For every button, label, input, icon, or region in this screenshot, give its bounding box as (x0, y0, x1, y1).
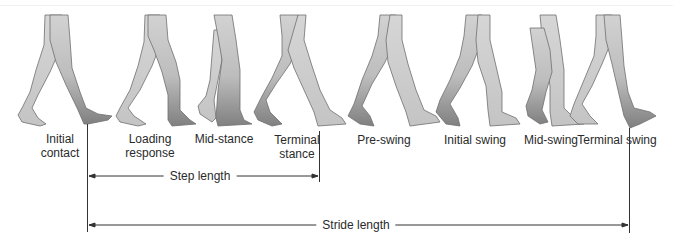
phase-label-mid-stance: Mid-stance (195, 132, 254, 146)
figure-mid-stance (198, 15, 252, 126)
label-line: Pre-swing (357, 133, 410, 147)
label-line: contact (41, 146, 80, 160)
gait-cycle-diagram: Initial contact Loading response Mid-sta… (0, 0, 673, 240)
phase-label-pre-swing: Pre-swing (357, 133, 410, 147)
label-line: Terminal (274, 133, 319, 147)
leg-figures (0, 0, 673, 240)
stride-length-label: Stride length (316, 218, 395, 232)
label-line: Initial swing (444, 133, 506, 147)
phase-label-initial-swing: Initial swing (444, 133, 506, 147)
phase-label-loading-response: Loading response (125, 132, 174, 160)
label-line: Terminal swing (577, 133, 656, 147)
figure-terminal-swing (570, 15, 656, 128)
phase-label-terminal-stance: Terminal stance (274, 133, 319, 161)
figure-initial-contact (18, 15, 112, 126)
step-arrow-right-icon (312, 174, 318, 178)
figure-initial-swing (436, 15, 520, 126)
stride-arrow-left-icon (89, 223, 95, 227)
phase-label-terminal-swing: Terminal swing (577, 133, 656, 147)
figure-pre-swing (348, 15, 440, 126)
label-line: Mid-swing (524, 133, 578, 147)
figure-terminal-stance (254, 15, 346, 126)
label-line: response (125, 146, 174, 160)
phase-label-mid-swing: Mid-swing (524, 133, 578, 147)
phase-label-initial-contact: Initial contact (41, 132, 80, 160)
label-line: stance (274, 147, 319, 161)
label-line: Initial (41, 132, 80, 146)
label-line: Mid-stance (195, 132, 254, 146)
figure-loading-response (116, 15, 196, 126)
label-line: Loading (125, 132, 174, 146)
step-length-label: Step length (164, 169, 237, 183)
step-arrow-left-icon (89, 174, 95, 178)
stride-arrow-right-icon (622, 223, 628, 227)
